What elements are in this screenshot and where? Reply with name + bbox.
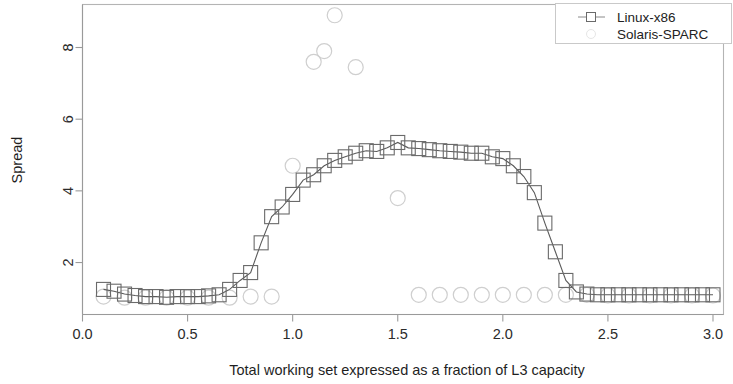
data-point-circle [243,289,258,304]
x-axis-title: Total working set expressed as a fractio… [229,362,585,378]
y-tick-label: 6 [61,115,77,123]
data-point-circle [600,288,615,303]
data-point-circle [411,287,426,302]
data-point-circle [537,287,552,302]
series-linux-x86-markers [97,135,720,304]
data-point-circle [474,287,489,302]
data-point-circle [432,287,447,302]
data-point-circle [495,287,510,302]
x-tick-label: 0.5 [177,326,197,342]
square-marker-icon [587,13,596,22]
plot-area-border [83,5,724,315]
legend-label-solaris-sparc: Solaris-SPARC [617,27,709,42]
data-point-circle [327,8,342,23]
data-point-circle [264,289,279,304]
data-point-circle [180,290,195,305]
data-point-circle [317,44,332,59]
x-tick-label: 1.0 [283,326,303,342]
data-point-circle [453,287,468,302]
y-tick-label: 4 [61,187,77,195]
spread-vs-working-set-chart: 0.00.51.01.52.02.53.0 2468 Total working… [0,0,733,384]
y-tick-label: 8 [61,43,77,51]
x-tick-label: 2.0 [493,326,513,342]
y-axis-ticks: 2468 [61,5,83,315]
data-point-circle [621,288,636,303]
chart-container: 0.00.51.01.52.02.53.0 2468 Total working… [0,0,733,384]
linux-x86-polyline [104,142,713,297]
x-tick-label: 0.0 [72,326,92,342]
data-point-circle [285,158,300,173]
series-linux-x86-line [104,142,713,297]
x-tick-label: 3.0 [703,326,723,342]
legend-label-linux-x86: Linux-x86 [617,10,676,25]
data-point-circle [705,288,720,303]
data-point-circle [558,287,573,302]
x-tick-label: 1.5 [388,326,408,342]
data-point-circle [348,60,363,75]
data-point-circle [684,288,699,303]
y-axis-title: Spread [9,137,25,184]
x-axis-ticks: 0.00.51.01.52.02.53.0 [72,315,723,342]
data-point-circle [663,288,678,303]
x-tick-label: 2.5 [598,326,618,342]
y-tick-label: 2 [61,258,77,266]
data-point-circle [516,287,531,302]
data-point-circle [642,288,657,303]
series-solaris-sparc [96,8,720,305]
data-point-circle [390,191,405,206]
chart-legend[interactable]: Linux-x86 Solaris-SPARC [556,4,732,44]
